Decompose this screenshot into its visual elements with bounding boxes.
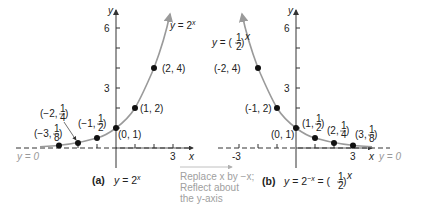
point (312, 135, 318, 141)
asymptote-label: y = 0 (378, 151, 401, 162)
point-label-1-half: (1, 1 2 ) (302, 113, 324, 133)
transform-note: Replace x by −x; Reflect about the y-axi… (180, 167, 254, 204)
asymptote-label: y = 0 (16, 151, 39, 162)
svg-text:(−2,: (−2, (40, 108, 58, 119)
point (255, 65, 261, 71)
curve-label-b: y = ( 1 2 ) x (211, 31, 251, 52)
caption-letter-a: (a) (92, 174, 105, 186)
svg-text:(2,: (2, (327, 125, 339, 136)
point-label-2-quarter: (2, 1 4 ) (327, 120, 349, 140)
svg-text:y = (: y = ( (211, 37, 232, 48)
y-tick-label-6: 6 (104, 23, 110, 34)
point (132, 105, 138, 111)
point (274, 105, 280, 111)
point-label: (1, 2) (140, 103, 163, 114)
x-axis-label: x (368, 151, 375, 162)
x-tick-label-minus3: -3 (232, 151, 241, 162)
point (331, 140, 337, 146)
point-label: (-1, 2) (245, 103, 272, 114)
transform-note-line2: Reflect about (180, 182, 239, 193)
transform-note-line1: Replace x by −x; (180, 171, 254, 182)
point-label: (2, 4) (162, 63, 185, 74)
svg-text:x: x (346, 170, 353, 181)
svg-text:x: x (244, 31, 251, 42)
point-label: (0, 1) (271, 129, 294, 140)
svg-text:): ) (343, 175, 347, 187)
svg-text:(−1,: (−1, (78, 118, 96, 129)
x-tick-label-3: 3 (350, 151, 356, 162)
svg-text:(−3,: (−3, (34, 128, 52, 139)
svg-text:(3,: (3, (355, 129, 367, 140)
svg-text:): ) (103, 118, 106, 129)
caption-letter-b: (b) (262, 175, 275, 187)
point-label-3-eighth: (3, 1 8 ) (355, 124, 377, 144)
svg-text:): ) (59, 128, 62, 139)
point-label-minus1-half: (−1, 1 2 ) (78, 113, 106, 133)
panel-b: 6 3 3 -3 x y y = 0 y = ( 1 2 ) x (-2, 4)… (211, 5, 401, 191)
point (350, 143, 356, 149)
svg-text:): ) (374, 129, 377, 140)
y-tick-label-3: 3 (104, 83, 110, 94)
svg-text:): ) (241, 37, 244, 48)
svg-text:(1,: (1, (302, 118, 314, 129)
point (75, 140, 81, 146)
transform-note-line3: the y-axis (180, 193, 223, 204)
point-label-minus2-quarter: (−2, 1 4 ) (40, 103, 68, 123)
svg-text:y = 2−x = (: y = 2−x = ( (283, 175, 331, 187)
point (56, 143, 62, 149)
exponential-graphs-figure: 6 3 3 x y y = 0 y = 2x (2, 4) (1, 2) (0,… (0, 0, 422, 218)
y-ticks (296, 28, 300, 128)
y-axis-label: y (287, 5, 294, 16)
y-tick-label-3: 3 (284, 83, 290, 94)
point (151, 65, 157, 71)
point (94, 135, 100, 141)
svg-text:): ) (321, 118, 324, 129)
point-label-minus3-eighth: (−3, 1 8 ) (34, 123, 62, 143)
label-pointer-arrow (64, 122, 76, 140)
point-label: (0, 1) (118, 129, 141, 140)
x-axis-label: x (188, 151, 195, 162)
y-axis-label: y (107, 5, 114, 16)
point-label: (-2, 4) (214, 63, 241, 74)
curve-label-a: y = 2x (169, 19, 196, 31)
x-tick-label-3: 3 (170, 151, 176, 162)
y-tick-label-6: 6 (284, 23, 290, 34)
caption-formula-a: y = 2x (113, 174, 141, 186)
svg-text:): ) (346, 125, 349, 136)
svg-text:): ) (65, 108, 68, 119)
y-ticks (116, 28, 120, 128)
caption-formula-b: y = 2−x = ( 1 2 ) x (283, 170, 353, 191)
panel-a: 6 3 3 x y y = 0 y = 2x (2, 4) (1, 2) (0,… (16, 5, 196, 186)
